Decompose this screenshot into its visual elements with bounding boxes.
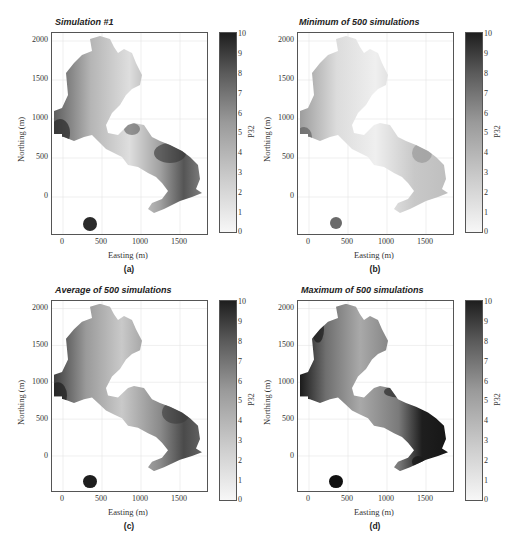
colorbar-tick: 5 bbox=[484, 396, 488, 405]
y-tick: 0 bbox=[18, 451, 48, 460]
panel-d: Maximum of 500 simulations 2000 1500 100… bbox=[246, 268, 504, 544]
x-tick: 1000 bbox=[371, 494, 401, 503]
x-axis-label: Easting (m) bbox=[78, 507, 178, 517]
x-axis-label: Easting (m) bbox=[324, 250, 424, 260]
colorbar bbox=[219, 32, 237, 233]
colorbar-tick: 2 bbox=[484, 456, 488, 465]
x-axis-label: Easting (m) bbox=[78, 250, 178, 260]
panel-title: Minimum of 500 simulations bbox=[299, 17, 420, 27]
x-tick: 0 bbox=[47, 237, 77, 246]
panel-label: (c) bbox=[114, 521, 144, 531]
panel-title: Maximum of 500 simulations bbox=[301, 285, 424, 295]
colorbar-tick: 1 bbox=[484, 208, 488, 217]
colorbar-tick: 7 bbox=[238, 357, 242, 366]
heatmap-field bbox=[52, 33, 207, 234]
colorbar-tick: 10 bbox=[238, 297, 246, 306]
colorbar-tick: 5 bbox=[238, 396, 242, 405]
y-tick: 0 bbox=[264, 451, 294, 460]
colorbar-tick: 6 bbox=[484, 377, 488, 386]
y-tick: 2000 bbox=[264, 35, 294, 44]
plot-area bbox=[51, 300, 208, 492]
colorbar-tick: 7 bbox=[484, 357, 488, 366]
x-tick: 1500 bbox=[410, 494, 440, 503]
plot-area bbox=[297, 32, 454, 235]
x-tick: 0 bbox=[293, 494, 323, 503]
x-tick: 1500 bbox=[164, 237, 194, 246]
y-tick: 1500 bbox=[264, 74, 294, 83]
colorbar-tick: 5 bbox=[238, 128, 242, 137]
colorbar-tick: 4 bbox=[238, 416, 242, 425]
colorbar-tick: 1 bbox=[238, 208, 242, 217]
y-tick: 0 bbox=[18, 191, 48, 200]
colorbar-tick: 7 bbox=[484, 89, 488, 98]
x-axis-label: Easting (m) bbox=[324, 507, 424, 517]
y-axis-label: Northing (m) bbox=[16, 365, 26, 425]
colorbar-tick: 8 bbox=[484, 337, 488, 346]
colorbar-tick: 9 bbox=[484, 49, 488, 58]
plot-area bbox=[297, 300, 454, 492]
colorbar-tick: 9 bbox=[484, 317, 488, 326]
colorbar-tick: 3 bbox=[238, 168, 242, 177]
colorbar-tick: 9 bbox=[238, 49, 242, 58]
colorbar-tick: 8 bbox=[238, 69, 242, 78]
colorbar-tick: 1 bbox=[484, 476, 488, 485]
x-tick: 500 bbox=[86, 494, 116, 503]
colorbar-tick: 3 bbox=[484, 168, 488, 177]
y-axis-label: Northing (m) bbox=[262, 102, 272, 162]
colorbar-tick: 8 bbox=[238, 337, 242, 346]
colorbar bbox=[465, 32, 483, 233]
colorbar-tick: 5 bbox=[484, 128, 488, 137]
y-tick: 2000 bbox=[18, 35, 48, 44]
y-tick: 2000 bbox=[264, 303, 294, 312]
y-axis-label: Northing (m) bbox=[262, 365, 272, 425]
colorbar-tick: 1 bbox=[238, 476, 242, 485]
panel-b: Minimum of 500 simulations 2000 1500 100… bbox=[246, 0, 504, 276]
x-tick: 1000 bbox=[371, 237, 401, 246]
colorbar-tick: 2 bbox=[484, 188, 488, 197]
colorbar-tick: 6 bbox=[238, 377, 242, 386]
panel-label: (d) bbox=[360, 521, 390, 531]
colorbar-tick: 8 bbox=[484, 69, 488, 78]
colorbar-tick: 2 bbox=[238, 188, 242, 197]
x-tick: 1000 bbox=[125, 237, 155, 246]
colorbar bbox=[465, 300, 483, 501]
x-tick: 500 bbox=[332, 494, 362, 503]
x-tick: 1500 bbox=[164, 494, 194, 503]
colorbar-tick: 10 bbox=[484, 29, 492, 38]
y-tick: 1500 bbox=[18, 74, 48, 83]
colorbar-tick: 6 bbox=[238, 109, 242, 118]
colorbar-tick: 10 bbox=[484, 297, 492, 306]
x-tick: 0 bbox=[47, 494, 77, 503]
panel-c: Average of 500 simulations 2000 1500 100… bbox=[0, 268, 258, 544]
y-tick: 0 bbox=[264, 191, 294, 200]
colorbar-tick: 0 bbox=[238, 227, 242, 236]
heatmap-field bbox=[298, 301, 453, 491]
colorbar-tick: 4 bbox=[238, 148, 242, 157]
plot-area bbox=[51, 32, 208, 235]
colorbar-label: P32 bbox=[493, 393, 502, 405]
colorbar-tick: 4 bbox=[484, 148, 488, 157]
colorbar-tick: 9 bbox=[238, 317, 242, 326]
panel-title: Average of 500 simulations bbox=[55, 285, 172, 295]
x-tick: 1500 bbox=[410, 237, 440, 246]
colorbar-tick: 7 bbox=[238, 89, 242, 98]
colorbar-tick: 2 bbox=[238, 456, 242, 465]
x-tick: 0 bbox=[293, 237, 323, 246]
y-axis-label: Northing (m) bbox=[16, 102, 26, 162]
colorbar-tick: 0 bbox=[484, 495, 488, 504]
colorbar-tick: 3 bbox=[484, 436, 488, 445]
colorbar-tick: 0 bbox=[238, 495, 242, 504]
panel-a: Simulation #1 2000 1500 1000 500 0 0 500… bbox=[0, 0, 258, 276]
x-tick: 500 bbox=[332, 237, 362, 246]
colorbar-tick: 4 bbox=[484, 416, 488, 425]
colorbar-tick: 6 bbox=[484, 109, 488, 118]
colorbar bbox=[219, 300, 237, 501]
x-tick: 1000 bbox=[125, 494, 155, 503]
y-tick: 2000 bbox=[18, 303, 48, 312]
heatmap-field bbox=[298, 33, 453, 234]
colorbar-tick: 10 bbox=[238, 29, 246, 38]
panel-title: Simulation #1 bbox=[55, 17, 114, 27]
colorbar-tick: 0 bbox=[484, 227, 488, 236]
heatmap-field bbox=[52, 301, 207, 491]
colorbar-label: P32 bbox=[493, 125, 502, 137]
